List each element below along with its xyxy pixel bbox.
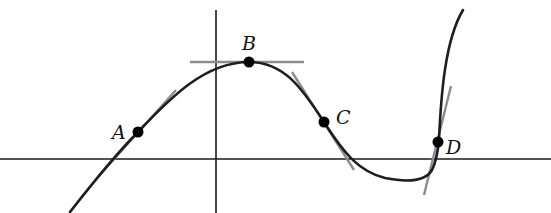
point-c xyxy=(319,117,330,128)
function-graph: A B C D xyxy=(0,0,551,213)
label-c: C xyxy=(336,106,351,128)
function-curve xyxy=(70,10,463,212)
point-d xyxy=(433,137,444,148)
point-a xyxy=(133,127,144,138)
label-b: B xyxy=(241,32,256,54)
label-a: A xyxy=(110,121,126,143)
label-d: D xyxy=(445,136,461,158)
point-b xyxy=(244,57,255,68)
